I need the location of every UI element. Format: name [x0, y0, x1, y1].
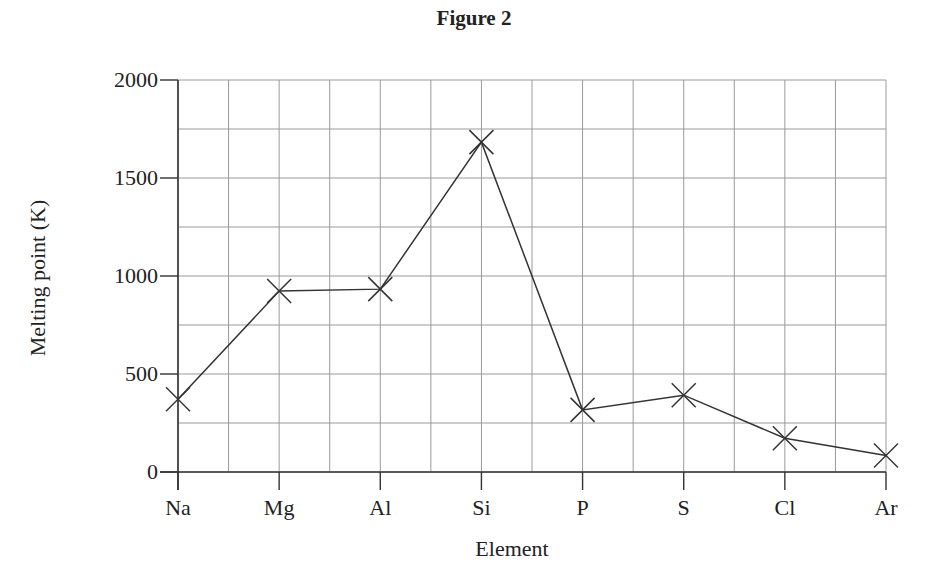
x-tick-label: P [576, 495, 588, 520]
x-tick-label: Na [165, 495, 191, 520]
x-tick-label: Si [472, 495, 490, 520]
y-tick-label: 0 [147, 459, 158, 484]
x-tick-label: Cl [774, 495, 795, 520]
y-tick-label: 1500 [114, 165, 158, 190]
x-tick-label: Ar [874, 495, 898, 520]
x-tick-label: Al [369, 495, 391, 520]
y-axis-label: Melting point (K) [25, 178, 51, 378]
y-tick-label: 1000 [114, 263, 158, 288]
x-axis-label: Element [432, 536, 592, 562]
chart-container: Figure 2 Melting point (K) Element 05001… [0, 0, 948, 581]
x-tick-label: Mg [264, 495, 295, 520]
y-tick-label: 500 [125, 361, 158, 386]
x-tick-label: S [678, 495, 690, 520]
y-tick-label: 2000 [114, 67, 158, 92]
chart-title: Figure 2 [0, 6, 948, 31]
plot-area: 0500100015002000NaMgAlSiPSClAr [0, 0, 948, 581]
